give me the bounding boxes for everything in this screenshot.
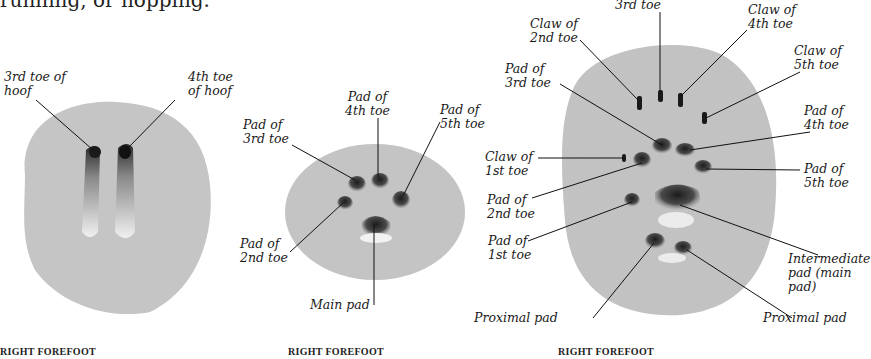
label-pad-2nd-toe: Pad of 2nd toe bbox=[240, 237, 288, 265]
label-pad-3rd-toe: Pad of 3rd toe bbox=[505, 62, 551, 90]
caption-hoof: RIGHT FOREFOOT bbox=[0, 346, 96, 357]
caption-round-paw: RIGHT FOREFOOT bbox=[288, 346, 384, 357]
label-main-pad: Main pad bbox=[310, 298, 370, 312]
clawed-paw-print bbox=[562, 45, 776, 315]
hoof-print bbox=[24, 102, 211, 314]
label-intermediate-pad: Intermediate pad (main pad) bbox=[788, 252, 871, 294]
label-claw-3rd-toe: 3rd toe bbox=[615, 0, 661, 12]
label-fourth-toe-of-hoof: 4th toe of hoof bbox=[188, 70, 233, 98]
label-pad-1st-toe: Pad of 1st toe bbox=[488, 234, 531, 262]
round-paw-print bbox=[285, 144, 465, 280]
label-pad-4th-toe: Pad of 4th toe bbox=[345, 90, 390, 118]
label-pad-5th-toe: Pad of 5th toe bbox=[440, 103, 485, 131]
label-claw-2nd-toe: Claw of 2nd toe bbox=[530, 17, 578, 45]
label-proximal-pad-left: Proximal pad bbox=[474, 311, 558, 325]
label-third-toe-of-hoof: 3rd toe of hoof bbox=[4, 70, 66, 98]
label-pad-5th-toe: Pad of 5th toe bbox=[804, 162, 849, 190]
label-pad-2nd-toe: Pad of 2nd toe bbox=[487, 193, 535, 221]
label-claw-4th-toe: Claw of 4th toe bbox=[748, 3, 796, 31]
label-claw-1st-toe: Claw of 1st toe bbox=[485, 150, 533, 178]
label-pad-4th-toe: Pad of 4th toe bbox=[804, 104, 849, 132]
caption-clawed-paw: RIGHT FOREFOOT bbox=[558, 346, 654, 357]
label-claw-5th-toe: Claw of 5th toe bbox=[794, 44, 842, 72]
label-pad-3rd-toe: Pad of 3rd toe bbox=[243, 118, 289, 146]
label-proximal-pad-right: Proximal pad bbox=[763, 311, 847, 325]
